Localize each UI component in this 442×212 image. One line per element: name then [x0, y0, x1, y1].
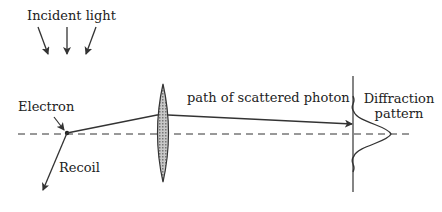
electron-pointer-arrow	[54, 117, 64, 130]
scattered-photon-label: path of scattered photon	[187, 91, 350, 104]
incident-light-arrows	[38, 27, 96, 54]
incident-light-label: Incident light	[27, 9, 116, 22]
electron-label: Electron	[18, 100, 74, 113]
lens	[158, 84, 169, 182]
diffraction-label-line2: pattern	[358, 107, 440, 120]
heisenberg-microscope-diagram: Incident light Electron Recoil path of s…	[0, 0, 442, 212]
recoil-label: Recoil	[59, 161, 100, 174]
diffraction-label-line1: Diffraction	[358, 92, 440, 105]
scattered-photon-path	[67, 115, 168, 133]
